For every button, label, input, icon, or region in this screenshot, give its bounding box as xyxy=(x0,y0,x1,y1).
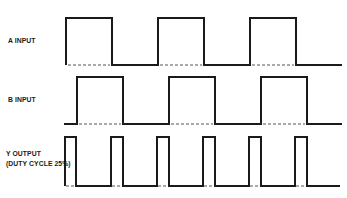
waveform-b-input xyxy=(64,77,342,124)
timing-waveforms xyxy=(0,0,347,198)
signal-trace xyxy=(64,77,342,124)
waveform-y-output xyxy=(65,137,340,186)
signal-trace xyxy=(65,137,340,186)
waveform-a-input xyxy=(66,18,342,65)
signal-trace xyxy=(66,18,342,65)
